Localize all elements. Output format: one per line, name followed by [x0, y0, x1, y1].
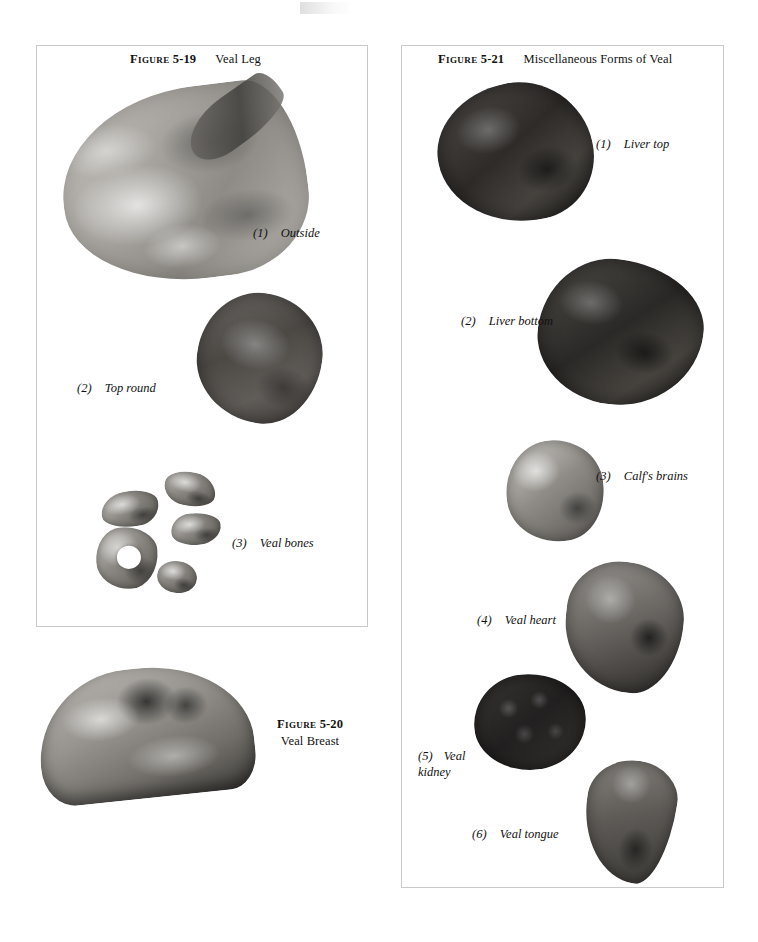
figure-caption-label: Figure [130, 52, 170, 66]
figure-caption-5-20: Figure 5-20 Veal Breast [255, 716, 365, 750]
item-number: (1) [596, 137, 611, 151]
figure-caption-5-19: Figure 5-19 Veal Leg [130, 52, 261, 67]
item-number: (3) [596, 469, 611, 483]
item-number: (3) [232, 536, 247, 550]
item-text-line2: kidney [418, 765, 451, 779]
photo-veal-breast [32, 657, 259, 809]
item-text: Liver top [624, 137, 669, 151]
item-text: Veal tongue [500, 827, 559, 841]
figure-caption-label: Figure [277, 717, 317, 731]
item-label-veal-tongue: (6) Veal tongue [472, 826, 559, 842]
item-number: (4) [477, 613, 492, 627]
figure-caption-title: Veal Breast [281, 734, 339, 748]
item-label-calfs-brains: (3) Calf's brains [596, 468, 688, 484]
item-number: (2) [461, 314, 476, 328]
item-text: Veal heart [505, 613, 556, 627]
item-label-outside: (1) Outside [253, 225, 320, 241]
figure-caption-title: Veal Leg [215, 52, 261, 66]
item-number: (2) [77, 381, 92, 395]
item-text: Veal bones [260, 536, 314, 550]
item-text: Outside [281, 226, 320, 240]
figure-caption-number: 5-19 [173, 52, 196, 66]
item-label-liver-top: (1) Liver top [596, 136, 669, 152]
item-text: Veal [444, 749, 466, 763]
item-text: Top round [105, 381, 156, 395]
figure-caption-5-21: Figure 5-21 Miscellaneous Forms of Veal [438, 52, 672, 67]
item-number: (1) [253, 226, 268, 240]
item-label-veal-heart: (4) Veal heart [477, 612, 556, 628]
item-number: (6) [472, 827, 487, 841]
item-label-liver-bottom: (2) Liver bottom [461, 313, 553, 329]
item-text: Liver bottom [489, 314, 553, 328]
figure-caption-number: 5-20 [320, 717, 343, 731]
item-label-top-round: (2) Top round [77, 380, 156, 396]
item-text: Calf's brains [624, 469, 688, 483]
item-number: (5) [418, 749, 433, 763]
figure-caption-number: 5-21 [481, 52, 504, 66]
figure-caption-label: Figure [438, 52, 478, 66]
item-label-veal-bones: (3) Veal bones [232, 535, 314, 551]
item-label-veal-kidney: (5) Veal kidney [418, 748, 488, 780]
figure-caption-title: Miscellaneous Forms of Veal [524, 52, 673, 66]
scan-artifact [300, 2, 352, 14]
